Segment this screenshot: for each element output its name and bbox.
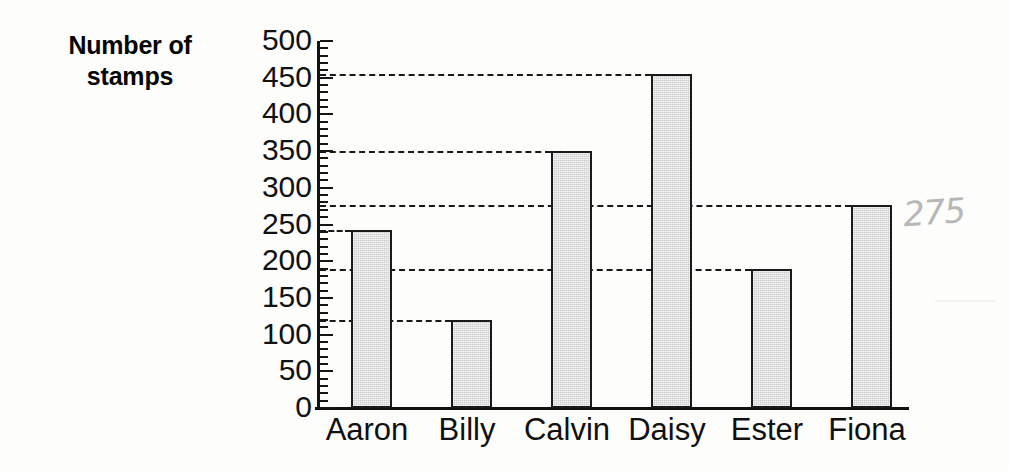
y-tick-minor <box>320 356 328 358</box>
y-tick-minor <box>320 128 328 130</box>
y-axis-title: Number of stamps <box>30 30 230 91</box>
bar-calvin <box>551 151 592 408</box>
y-tick-major <box>320 260 333 262</box>
y-tick-label: 250 <box>232 209 312 239</box>
bar-daisy <box>651 74 692 408</box>
bar-aaron <box>351 230 392 408</box>
y-tick-minor <box>320 209 328 211</box>
y-tick-minor <box>320 172 328 174</box>
y-tick-label: 0 <box>232 392 312 422</box>
y-tick-minor <box>320 290 328 292</box>
y-tick-minor <box>320 341 328 343</box>
y-tick-major <box>320 334 333 336</box>
y-tick-minor <box>320 194 328 196</box>
y-tick-label: 500 <box>232 25 312 55</box>
chart-page: Number of stamps 50045040035030025020015… <box>0 0 1009 471</box>
y-tick-minor <box>320 179 328 181</box>
y-tick-label: 150 <box>232 282 312 312</box>
y-tick-minor <box>320 312 328 314</box>
y-tick-minor <box>320 121 328 123</box>
y-tick-minor <box>320 378 328 380</box>
y-tick-major <box>320 297 333 299</box>
y-tick-minor <box>320 157 328 159</box>
y-tick-major <box>320 407 333 409</box>
y-tick-minor <box>320 392 328 394</box>
gridline-aaron <box>320 230 351 232</box>
y-tick-minor <box>320 165 328 167</box>
bar-billy <box>451 320 492 408</box>
x-label-ester: Ester <box>717 414 817 447</box>
y-axis-tick-labels: 500450400350300250200150100500 <box>232 41 312 408</box>
y-tick-minor <box>320 55 328 57</box>
y-tick-minor <box>320 47 328 49</box>
y-axis-title-line2: stamps <box>30 61 230 92</box>
y-tick-major <box>320 370 333 372</box>
y-axis-title-line1: Number of <box>30 30 230 61</box>
y-tick-major <box>320 40 333 42</box>
y-tick-minor <box>320 304 328 306</box>
y-tick-minor <box>320 275 328 277</box>
gridline-calvin <box>320 151 551 153</box>
y-tick-minor <box>320 91 328 93</box>
x-label-fiona: Fiona <box>817 414 917 447</box>
y-tick-minor <box>320 400 328 402</box>
x-label-aaron: Aaron <box>317 414 417 447</box>
y-tick-minor <box>320 216 328 218</box>
y-tick-label: 50 <box>232 355 312 385</box>
x-label-calvin: Calvin <box>517 414 617 447</box>
y-tick-minor <box>320 326 328 328</box>
y-tick-minor <box>320 201 328 203</box>
bar-ester <box>751 269 792 408</box>
y-tick-minor <box>320 84 328 86</box>
bar-fiona <box>851 205 892 408</box>
y-tick-major <box>320 113 333 115</box>
y-tick-minor <box>320 238 328 240</box>
y-tick-minor <box>320 246 328 248</box>
y-tick-minor <box>320 106 328 108</box>
y-tick-major <box>320 77 333 79</box>
y-tick-minor <box>320 282 328 284</box>
y-tick-label: 400 <box>232 98 312 128</box>
y-tick-label: 450 <box>232 62 312 92</box>
plot-area <box>317 41 917 408</box>
y-tick-minor <box>320 253 328 255</box>
y-tick-minor <box>320 69 328 71</box>
y-tick-major <box>320 187 333 189</box>
x-label-daisy: Daisy <box>617 414 717 447</box>
x-axis-line <box>315 407 909 410</box>
y-tick-minor <box>320 99 328 101</box>
y-tick-label: 300 <box>232 172 312 202</box>
y-tick-minor <box>320 143 328 145</box>
y-tick-minor <box>320 135 328 137</box>
y-tick-minor <box>320 363 328 365</box>
gridline-daisy <box>320 74 651 76</box>
y-tick-label: 100 <box>232 319 312 349</box>
y-tick-minor <box>320 62 328 64</box>
x-label-billy: Billy <box>417 414 517 447</box>
y-tick-major <box>320 224 333 226</box>
y-tick-label: 350 <box>232 135 312 165</box>
y-tick-label: 200 <box>232 245 312 275</box>
y-tick-minor <box>320 385 328 387</box>
y-tick-minor <box>320 348 328 350</box>
handwritten-annotation: 275 <box>902 190 967 234</box>
scan-smudge <box>935 300 995 302</box>
x-axis-category-labels: AaronBillyCalvinDaisyEsterFiona <box>317 414 917 462</box>
